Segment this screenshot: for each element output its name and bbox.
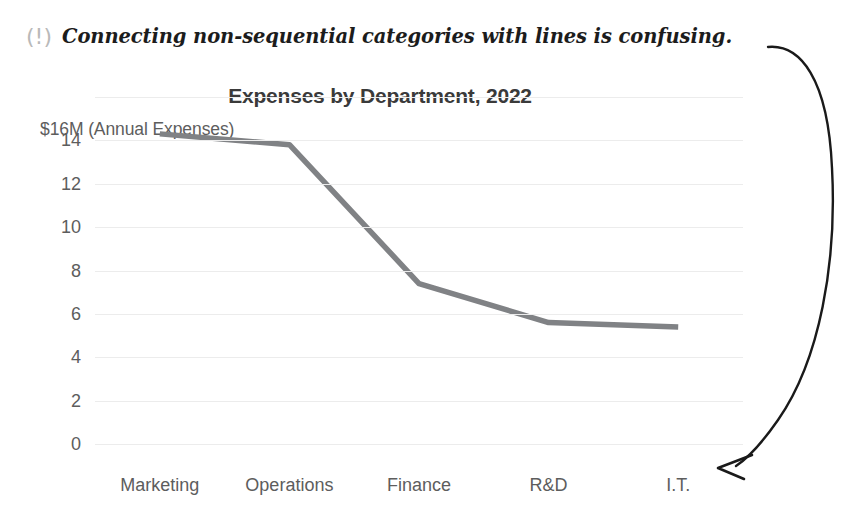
gridline [95,401,743,402]
y-axis-tick-label: 10 [61,217,81,238]
y-axis-tick-label: 6 [71,303,81,324]
x-axis-tick-label: Marketing [120,475,199,496]
x-axis-tick-label: I.T. [666,475,690,496]
y-axis-tick-label: 0 [71,434,81,455]
y-axis-tick-label: 2 [71,390,81,411]
line-chart: Expenses by Department, 2022 $16M (Annua… [0,74,760,494]
plot-area: 02468101214MarketingOperationsFinanceR&D… [95,97,743,444]
y-axis-tick-label: 4 [71,347,81,368]
gridline [95,357,743,358]
annotation-text: Connecting non-sequential categories wit… [62,27,732,47]
y-axis-tick-label: 12 [61,173,81,194]
gridline [95,444,743,445]
warning-exclamation-icon: (!) [26,26,52,48]
critique-annotation: (!) Connecting non-sequential categories… [26,26,732,48]
y-axis-tick-label: 8 [71,260,81,281]
gridline [95,97,743,98]
gridline [95,314,743,315]
gridline [95,271,743,272]
gridline [95,140,743,141]
x-axis-tick-label: Finance [387,475,451,496]
y-axis-tick-label: 14 [61,130,81,151]
gridline [95,227,743,228]
x-axis-tick-label: Operations [245,475,333,496]
gridline [95,184,743,185]
x-axis-tick-label: R&D [530,475,568,496]
